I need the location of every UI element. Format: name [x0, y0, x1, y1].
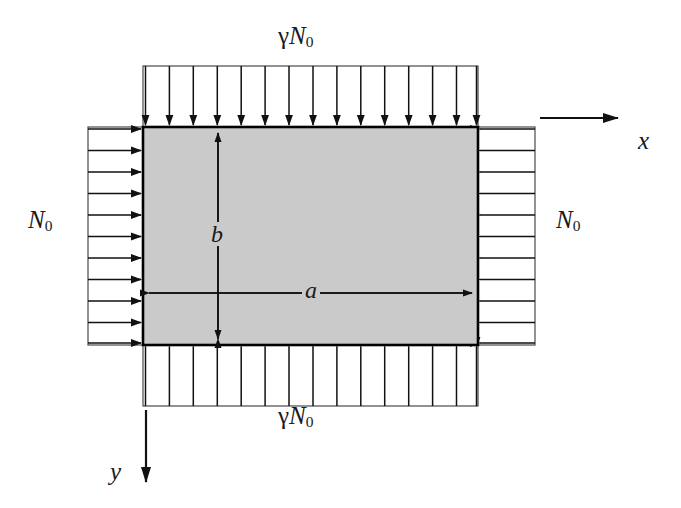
load-left-arrows: [88, 129, 141, 343]
load-top-label: γN0: [278, 22, 314, 51]
load-right-arrows: [480, 129, 535, 343]
load-top-arrows: [146, 66, 477, 125]
load-top-subscript: 0: [306, 33, 314, 50]
load-bottom-group: [143, 345, 478, 406]
plate-buckling-figure: γN0 γN0 N0 N0 b a x y: [0, 0, 681, 508]
load-right-subscript: 0: [573, 217, 581, 234]
load-bottom-base: N: [289, 402, 306, 429]
load-left-group: [88, 127, 143, 345]
x-axis-label: x: [638, 127, 649, 155]
dimension-label-b: b: [208, 222, 226, 246]
load-right-group: [478, 127, 535, 345]
load-left-label: N0: [28, 206, 52, 235]
load-left-subscript: 0: [45, 217, 53, 234]
dimension-label-a: a: [302, 278, 320, 302]
rectangular-plate: [143, 127, 478, 345]
load-right-label: N0: [556, 206, 580, 235]
load-top-gamma: γ: [278, 22, 289, 49]
load-bottom-gamma: γ: [278, 402, 289, 429]
load-top-base: N: [289, 22, 306, 49]
load-bottom-subscript: 0: [306, 413, 314, 430]
load-bottom-label: γN0: [278, 402, 314, 431]
y-axis-label: y: [110, 458, 121, 486]
figure-vector-canvas: [0, 0, 681, 508]
load-top-group: [143, 66, 478, 127]
load-left-base: N: [28, 206, 45, 233]
load-right-base: N: [556, 206, 573, 233]
load-bottom-arrows: [146, 347, 477, 406]
